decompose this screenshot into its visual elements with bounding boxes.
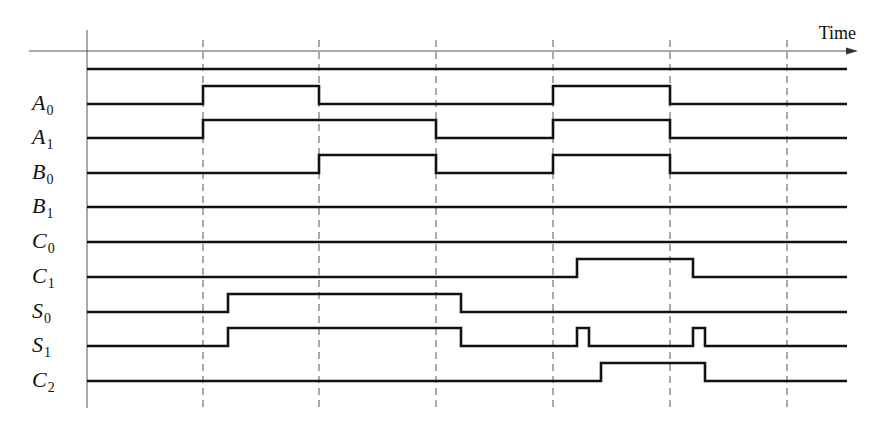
signal-label-B1: B1 [32,193,53,221]
timing-diagram: Time A0A1B0B1C0C1S0S1C2 [0,0,885,425]
waveform-A0 [87,86,847,104]
signal-label-C0: C0 [32,228,55,256]
signal-labels: A0A1B0B1C0C1S0S1C2 [30,90,55,395]
signal-label-S1: S1 [32,332,51,360]
signal-label-B0: B0 [32,159,53,187]
time-grid [87,30,787,408]
signal-label-C1: C1 [32,263,55,291]
waveform-S0 [87,294,847,312]
waveform-C1 [87,259,847,277]
waveform-C2 [87,363,847,381]
arrow-right-icon [846,48,858,55]
waveform-A1 [87,120,847,138]
signal-label-C2: C2 [32,367,55,395]
signal-label-A0: A0 [30,90,53,118]
time-axis: Time [29,23,858,55]
signal-label-S0: S0 [32,298,51,326]
signal-label-A1: A1 [30,124,53,152]
waveform-S1 [87,328,847,346]
waveform-B0 [87,155,847,173]
time-axis-label: Time [819,23,856,43]
signal-waveforms [87,69,847,381]
